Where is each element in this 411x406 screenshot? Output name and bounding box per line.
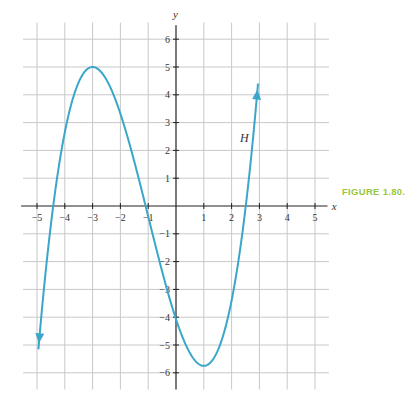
svg-text:1: 1 xyxy=(165,173,170,184)
svg-text:−4: −4 xyxy=(159,312,170,323)
svg-text:−1: −1 xyxy=(159,228,170,239)
figure-caption: FIGURE 1.80. xyxy=(342,186,405,197)
function-graph: −5−4−3−2−112345−6−5−4−3−2−1123456 H x y xyxy=(0,0,411,406)
axes xyxy=(21,25,327,389)
svg-text:−4: −4 xyxy=(59,212,70,223)
svg-text:2: 2 xyxy=(165,145,170,156)
svg-text:4: 4 xyxy=(285,212,290,223)
svg-text:−2: −2 xyxy=(115,212,126,223)
svg-text:−5: −5 xyxy=(32,212,43,223)
svg-text:6: 6 xyxy=(165,34,170,45)
svg-text:4: 4 xyxy=(165,89,170,100)
svg-text:5: 5 xyxy=(165,62,170,73)
y-axis-label: y xyxy=(172,8,178,20)
svg-text:2: 2 xyxy=(229,212,234,223)
svg-text:−3: −3 xyxy=(87,212,98,223)
svg-text:1: 1 xyxy=(201,212,206,223)
svg-text:5: 5 xyxy=(313,212,318,223)
svg-text:3: 3 xyxy=(257,212,262,223)
svg-text:3: 3 xyxy=(165,117,170,128)
x-axis-label: x xyxy=(331,200,337,212)
svg-text:−6: −6 xyxy=(159,367,170,378)
curve-label-h: H xyxy=(239,131,250,145)
svg-text:−5: −5 xyxy=(159,340,170,351)
